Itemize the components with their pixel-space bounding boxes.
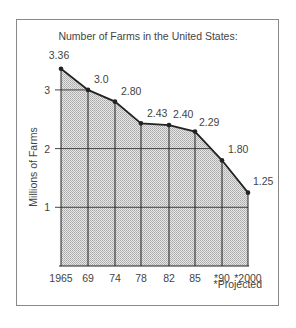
value-label: 2.80 [121, 85, 142, 97]
value-label: 1.80 [228, 143, 249, 155]
x-tick-label: 69 [82, 272, 94, 284]
data-point [113, 99, 118, 104]
value-label: 2.40 [173, 108, 194, 120]
projected-note: *Projected [214, 278, 263, 290]
y-tick-1: 1 [44, 201, 50, 213]
data-point [193, 129, 198, 134]
value-label: 2.29 [199, 116, 220, 128]
x-tick-label: 1965 [49, 272, 73, 284]
farms-chart: Number of Farms in the United States: 12… [0, 0, 296, 328]
value-label: 2.43 [147, 107, 168, 119]
value-label: 3.36 [49, 49, 70, 61]
x-tick-label: 74 [109, 272, 121, 284]
data-point [246, 190, 251, 195]
data-point [86, 88, 91, 93]
x-tick-label: 85 [189, 272, 201, 284]
data-point [139, 121, 144, 126]
data-point [59, 66, 64, 71]
x-tick-label: 78 [135, 272, 147, 284]
value-label: 1.25 [253, 175, 274, 187]
y-tick-2: 2 [44, 143, 50, 155]
y-tick-3: 3 [44, 84, 50, 96]
y-axis-label: Millions of Farms [27, 127, 39, 206]
chart-title: Number of Farms in the United States: [58, 30, 237, 42]
x-tick-label: 82 [163, 272, 175, 284]
data-point [167, 123, 172, 128]
data-point [220, 158, 225, 163]
value-label: 3.0 [94, 73, 109, 85]
